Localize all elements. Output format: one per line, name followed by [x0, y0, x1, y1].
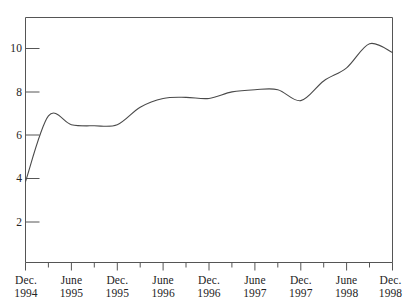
- y-axis-label-2: 2: [0, 216, 22, 229]
- y-axis-label-4: 4: [0, 172, 22, 185]
- plot-frame: [26, 18, 393, 263]
- x-axis-major-ticks: [26, 263, 393, 271]
- x-axis-label-year: 1998: [364, 287, 412, 300]
- y-axis-label-8: 8: [0, 86, 22, 99]
- y-axis-ticks: [26, 49, 40, 223]
- x-axis-label-dec-1998: Dec. 1998: [364, 274, 412, 299]
- data-series-line: [26, 43, 393, 181]
- y-axis-label-10: 10: [0, 42, 22, 55]
- chart-canvas: [0, 0, 412, 304]
- x-axis-label-month: Dec.: [364, 274, 412, 287]
- y-axis-label-6: 6: [0, 129, 22, 142]
- line-chart: 10 8 6 4 2 Dec. 1994 June 1995 Dec. 1995…: [0, 0, 412, 304]
- axis-frame: [26, 18, 393, 263]
